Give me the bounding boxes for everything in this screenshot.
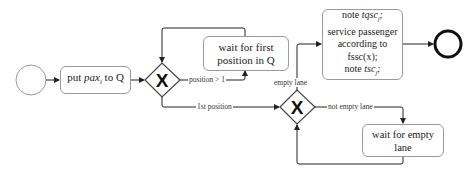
gateway-1-x-icon: X — [156, 71, 169, 90]
task-service-passenger: note tqscj; service passenger according … — [322, 9, 403, 80]
task-put-pax-label: put paxi to Q — [67, 71, 124, 89]
task-wait-first-label: wait for firstposition in Q — [217, 41, 274, 67]
task-wait-lane-label: wait for empty lane — [363, 128, 443, 154]
task-wait-first-position: wait for firstposition in Q — [203, 36, 289, 71]
flow-label-position-gt-1: position > 1 — [188, 75, 226, 84]
flow-label-empty-lane: empty lane — [273, 78, 308, 87]
flow-label-not-empty-lane: not empty lane — [327, 102, 374, 111]
task-wait-empty-lane: wait for empty lane — [362, 124, 444, 157]
task-service-label: note tqscj; service passenger according … — [327, 9, 397, 80]
task-put-pax: put paxi to Q — [60, 66, 131, 94]
flow-label-1st-position: 1st position — [196, 102, 233, 111]
end-event-icon — [435, 31, 461, 57]
start-event-icon — [16, 65, 46, 95]
gateway-2-x-icon: X — [291, 98, 304, 117]
bpmn-diagram: X X put paxi to Q wait for firstposition… — [0, 0, 473, 173]
